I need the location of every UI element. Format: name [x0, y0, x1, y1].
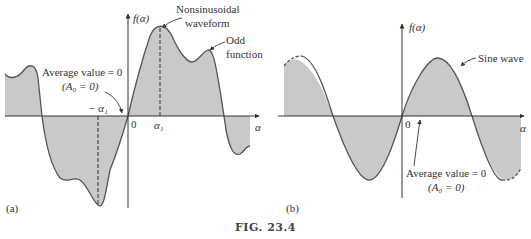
sine-wave-pointer — [461, 58, 476, 66]
nonsinusoidal-label-line2: waveform — [185, 17, 230, 29]
figure-graphics — [0, 0, 531, 239]
avg-label-b-line1: Average value = 0 — [406, 167, 486, 179]
origin-label-a: 0 — [131, 118, 137, 130]
avg-label-a-line1: Average value = 0 — [42, 66, 122, 78]
odd-label-line1: Odd — [226, 34, 245, 46]
sine-pointer — [453, 57, 458, 61]
x-axis-label-a: α — [255, 121, 261, 133]
panel-b-sine — [278, 24, 524, 198]
avg-label-a-line2: (A₀ = 0) — [62, 80, 98, 92]
nonsinusoidal-label-line1: Nonsinusoidal — [176, 3, 240, 15]
sine-wave-label: Sine wave — [478, 52, 524, 64]
origin-label-b: 0 — [405, 118, 411, 130]
figure-caption: FIG. 23.4 — [0, 221, 531, 234]
neg-alpha1-label: − α₁ — [88, 102, 108, 114]
panel-a-label: (a) — [6, 202, 18, 214]
y-axis-label-b: f(α) — [409, 21, 425, 33]
x-axis-label-b: α — [520, 122, 526, 134]
y-axis-label-a: f(α) — [133, 12, 149, 24]
odd-label-line2: function — [226, 48, 263, 60]
waveform-pointer — [163, 18, 182, 28]
panel-b-label: (b) — [286, 202, 299, 214]
avg-pointer-b — [414, 120, 420, 166]
odd-pointer — [210, 42, 225, 50]
alpha1-label: α₁ — [154, 119, 164, 131]
avg-label-b-line2: (A₀ = 0) — [428, 181, 464, 193]
panel-a-waveform — [5, 14, 259, 208]
